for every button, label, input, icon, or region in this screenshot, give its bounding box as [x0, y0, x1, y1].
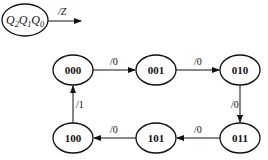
state-diagram: Q2Q1Q0 /Z 000 001 010 011 101 100 /0 /0 …	[0, 0, 268, 160]
state-101: 101	[136, 123, 176, 153]
svg-text:/1: /1	[76, 99, 84, 110]
transition-011-101: /0	[177, 124, 220, 138]
state-label: 011	[232, 132, 248, 144]
transition-000-001: /0	[93, 56, 135, 70]
legend-state-label: Q2Q1Q0	[6, 13, 44, 29]
svg-text:/0: /0	[231, 99, 239, 110]
svg-text:/0: /0	[110, 124, 118, 135]
svg-text:/0: /0	[194, 56, 202, 67]
transition-100-000: /1	[73, 86, 84, 123]
state-001: 001	[136, 55, 176, 85]
state-011: 011	[220, 123, 260, 153]
state-100: 100	[53, 123, 93, 153]
svg-text:/0: /0	[110, 56, 118, 67]
state-010: 010	[220, 55, 260, 85]
state-000: 000	[53, 55, 93, 85]
state-label: 001	[148, 64, 165, 76]
state-label: 100	[65, 132, 82, 144]
state-label: 000	[65, 64, 82, 76]
state-label: 010	[232, 64, 249, 76]
transition-101-100: /0	[94, 124, 136, 138]
legend: Q2Q1Q0 /Z	[2, 4, 81, 36]
transition-001-010: /0	[176, 56, 219, 70]
transition-010-011: /0	[231, 85, 240, 122]
svg-text:/0: /0	[194, 124, 202, 135]
state-label: 101	[148, 132, 165, 144]
legend-output-label: /Z	[57, 6, 67, 17]
